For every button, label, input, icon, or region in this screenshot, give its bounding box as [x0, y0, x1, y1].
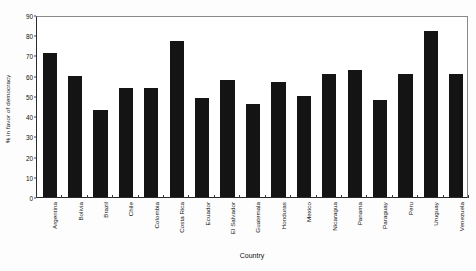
x-axis-tick-mark: [61, 195, 62, 198]
x-axis-category-label: Argentina: [51, 202, 58, 229]
x-axis-category-label: El Salvador: [229, 202, 236, 234]
x-axis-category-label: Ecuador: [204, 202, 211, 225]
x-axis-category-label: Colombia: [153, 202, 160, 229]
x-axis-tick-mark: [366, 195, 367, 198]
x-axis-tick-mark: [36, 195, 37, 198]
bar: [68, 76, 82, 197]
y-axis-tick-label: 0: [29, 195, 33, 202]
y-axis-tick-label: 90: [26, 13, 33, 20]
x-axis-tick-mark: [112, 195, 113, 198]
x-axis-category-label: Paraguay: [381, 202, 388, 229]
x-axis-tick-mark: [188, 195, 189, 198]
x-axis-tick-mark: [316, 195, 317, 198]
x-axis-tick-mark: [341, 195, 342, 198]
plot-area: [36, 16, 468, 198]
x-axis-category-labels: ArgentinaBoliviaBrazilChileColombiaCosta…: [36, 200, 468, 248]
bar-chart-figure: % in favor of democracy 0102030405060708…: [0, 0, 476, 271]
x-axis-category-label: Nicaragua: [331, 202, 338, 231]
bars-layer: [37, 17, 467, 197]
y-axis-tick-labels: 0102030405060708090: [18, 16, 36, 198]
y-axis-tick-label: 30: [26, 134, 33, 141]
x-axis-tick-mark: [138, 195, 139, 198]
bar: [220, 80, 234, 197]
bar: [373, 100, 387, 197]
bar: [170, 41, 184, 197]
bar: [119, 88, 133, 197]
x-axis-category-label: Uruguay: [432, 202, 439, 226]
bar: [144, 88, 158, 197]
x-axis-category-label: Costa Rica: [178, 202, 185, 233]
y-axis-tick-label: 20: [26, 154, 33, 161]
bar: [322, 74, 336, 197]
y-axis-tick-label: 70: [26, 53, 33, 60]
bar: [424, 31, 438, 197]
x-axis-title: Country: [36, 252, 468, 259]
x-axis-category-label: Bolivia: [77, 202, 84, 221]
bar: [297, 96, 311, 197]
x-axis-tick-mark: [163, 195, 164, 198]
x-axis-category-label: Mexico: [305, 202, 312, 222]
y-axis-title: % in favor of democracy: [4, 54, 18, 164]
x-axis-category-label: Honduras: [280, 202, 287, 229]
x-axis-tick-mark: [239, 195, 240, 198]
y-axis-tick-label: 50: [26, 93, 33, 100]
x-axis-tick-mark: [290, 195, 291, 198]
bar: [271, 82, 285, 197]
x-axis-tick-mark: [443, 195, 444, 198]
x-axis-tick-mark: [87, 195, 88, 198]
x-axis-category-label: Brazil: [102, 202, 109, 218]
bar: [43, 53, 57, 197]
x-axis-tick-mark: [468, 195, 469, 198]
y-axis-tick-label: 10: [26, 174, 33, 181]
x-axis-tick-mark: [265, 195, 266, 198]
y-axis-tick-label: 60: [26, 73, 33, 80]
bar: [93, 110, 107, 197]
bar: [449, 74, 463, 197]
y-axis-tick-label: 40: [26, 114, 33, 121]
bar: [195, 98, 209, 197]
y-axis-tick-label: 80: [26, 33, 33, 40]
x-axis-category-label: Venezuela: [458, 202, 465, 231]
bar: [348, 70, 362, 197]
x-axis-tick-mark: [392, 195, 393, 198]
x-axis-tick-mark: [214, 195, 215, 198]
x-axis-tick-mark: [417, 195, 418, 198]
x-axis-category-label: Chile: [127, 202, 134, 216]
x-axis-category-label: Panama: [356, 202, 363, 225]
bar: [398, 74, 412, 197]
bar: [246, 104, 260, 197]
x-axis-category-label: Peru: [407, 202, 414, 215]
x-axis-category-label: Guatemala: [254, 202, 261, 233]
